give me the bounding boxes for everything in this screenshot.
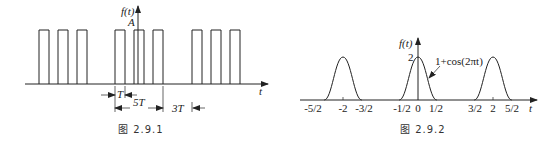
pulse bbox=[39, 30, 49, 84]
x-tick-label: -5/2 bbox=[304, 102, 322, 114]
x-tick-label: 2 bbox=[490, 102, 496, 114]
pulse bbox=[134, 30, 144, 84]
pulse bbox=[153, 30, 163, 84]
caption: 图 2.9.1 bbox=[118, 124, 164, 135]
pulse bbox=[211, 30, 221, 84]
x-axis-label: t bbox=[529, 102, 533, 114]
figure-canvas: f(t) A t T 5T 3T 图 2.9.1 f(t) 2 1+cos(2π… bbox=[0, 0, 555, 147]
x-tick-label: 3/2 bbox=[468, 102, 482, 114]
x-tick-label: 0 bbox=[415, 102, 421, 114]
group-span-label: 5T bbox=[133, 96, 146, 108]
y-axis-label: f(t) bbox=[399, 37, 413, 50]
pulse bbox=[192, 30, 202, 84]
x-tick-label: -2 bbox=[338, 102, 347, 114]
figure-2-9-1 bbox=[25, 6, 268, 112]
figure-2-9-2 bbox=[300, 38, 537, 100]
pulse-width-label: T bbox=[117, 88, 124, 100]
amplitude-label: A bbox=[127, 16, 135, 28]
caption: 图 2.9.2 bbox=[400, 124, 446, 135]
x-axis-label: t bbox=[259, 85, 263, 97]
curve-label: 1+cos(2πt) bbox=[435, 55, 483, 68]
x-tick-label: -3/2 bbox=[355, 102, 373, 114]
gap-label: 3T bbox=[171, 102, 185, 114]
pulse bbox=[115, 30, 125, 84]
pulse bbox=[77, 30, 87, 84]
pulse bbox=[58, 30, 68, 84]
x-tick-label: -1/2 bbox=[393, 102, 411, 114]
x-tick-label: 1/2 bbox=[429, 102, 443, 114]
x-tick-label: 5/2 bbox=[505, 102, 519, 114]
cosine-pulse bbox=[324, 57, 362, 100]
peak-label: 2 bbox=[408, 51, 414, 63]
pulse bbox=[230, 30, 240, 84]
